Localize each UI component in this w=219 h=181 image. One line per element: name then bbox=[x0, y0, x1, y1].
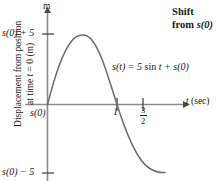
y-axis-caption-line2-suffix: = 0 (m) bbox=[25, 43, 35, 74]
x-tick-label-one: 1 bbox=[113, 107, 118, 117]
y-axis-caption-line2-prefix: at time bbox=[25, 76, 35, 105]
y-axis-caption-line2-var: t bbox=[25, 74, 35, 77]
chart-title-line1: Shift bbox=[172, 5, 213, 18]
equation-plus: + bbox=[162, 61, 174, 72]
equation-shift: s(0) bbox=[173, 61, 189, 72]
x-axis-label: t (sec) bbox=[186, 97, 209, 107]
fraction-numerator: 3 bbox=[137, 106, 149, 115]
equation-lhs: s(t) bbox=[112, 61, 125, 72]
chart-title-line2-prefix: from bbox=[172, 19, 197, 30]
fraction-denominator: 2 bbox=[137, 117, 149, 126]
x-tick-label-three-halves: 3 2 bbox=[137, 106, 149, 126]
chart-title-line2: from s(0) bbox=[172, 18, 213, 31]
y-axis-caption: Displacement from position at time t = 0… bbox=[13, 0, 37, 149]
equation-annotation: s(t) = 5 sin t + s(0) bbox=[112, 62, 189, 72]
y-axis-caption-line1: Displacement from position bbox=[13, 0, 25, 149]
equation-sin: sin bbox=[145, 61, 157, 72]
chart-title: Shift from s(0) bbox=[172, 5, 213, 31]
figure-container: Shift from s(0) m t (sec) s(0) + 5 s(0) … bbox=[0, 0, 219, 181]
equation-eq: = 5 bbox=[125, 61, 144, 72]
x-axis-label-unit: (sec) bbox=[189, 96, 210, 106]
y-axis-caption-line2: at time t = 0 (m) bbox=[25, 0, 37, 149]
chart-title-line2-math: s(0) bbox=[197, 19, 213, 30]
y-axis-unit-label: m bbox=[43, 2, 50, 12]
y-tick-label-bottom: s(0) − 5 bbox=[2, 167, 34, 177]
